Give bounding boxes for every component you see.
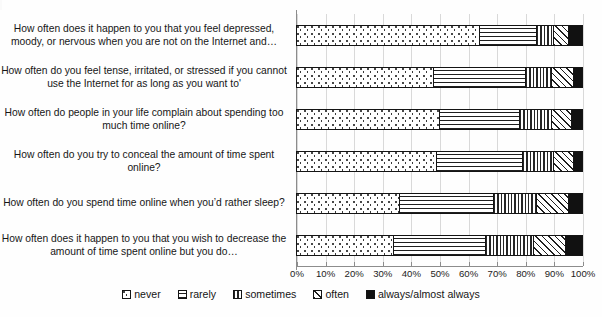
category-label: How often do you spend time online when … (0, 182, 292, 224)
category-axis-labels: How often does it happen to you that you… (0, 14, 292, 266)
category-label-text: How often does it happen to you that you… (0, 232, 288, 258)
bar-segment-never (296, 109, 440, 130)
tick-label: 20% (345, 268, 364, 279)
bar-row (297, 151, 583, 172)
bar-row (297, 109, 583, 130)
bar-segment-often (533, 235, 565, 256)
stacked-bar-chart: How often does it happen to you that you… (0, 0, 602, 317)
gridline (383, 14, 384, 266)
bar-segment-never (296, 67, 434, 88)
bar-segment-often (553, 25, 568, 46)
legend-item-rarely[interactable]: rarely (178, 288, 217, 300)
legend-item-always-almost-always[interactable]: always/almost always (366, 288, 480, 300)
bar-segment-rarely (393, 235, 486, 256)
tick-mark (469, 262, 470, 266)
bar-segment-rarely (399, 193, 494, 214)
tick-mark (383, 262, 384, 266)
bar-segment-sometimes (536, 25, 554, 46)
category-label-text: How often do you try to conceal the amou… (0, 148, 288, 174)
legend-swatch-icon (313, 290, 322, 299)
bar-segment-rarely (433, 67, 526, 88)
legend-item-sometimes[interactable]: sometimes (233, 288, 296, 300)
category-label-text: How often does it happen to you that you… (0, 22, 288, 48)
bar-segment-rarely (479, 25, 537, 46)
bar-segment-sometimes (525, 67, 552, 88)
bar-segment-rarely (439, 109, 520, 130)
bar-segment-often (551, 109, 572, 130)
tick-label: 60% (459, 268, 478, 279)
tick-mark (583, 262, 584, 266)
legend-label: never (134, 288, 161, 300)
category-label-text: How often do you feel tense, irritated, … (0, 64, 288, 90)
gridline (297, 14, 298, 266)
bar-row (297, 25, 583, 46)
tick-mark (297, 262, 298, 266)
bar-segment-sometimes (493, 193, 537, 214)
bar-segment-rarely (436, 151, 523, 172)
bar-segment-never (296, 151, 437, 172)
bar-segment-always-almost-always (568, 193, 583, 214)
legend-label: always/almost always (378, 288, 480, 300)
tick-mark (497, 262, 498, 266)
tick-label: 90% (545, 268, 564, 279)
tick-mark (526, 262, 527, 266)
category-label: How often do people in your life complai… (0, 98, 292, 140)
category-label: How often does it happen to you that you… (0, 14, 292, 56)
tick-mark (326, 262, 327, 266)
category-label-text: How often do people in your life complai… (0, 106, 288, 132)
tick-mark (354, 262, 355, 266)
gridline (440, 14, 441, 266)
gridline (411, 14, 412, 266)
gridline (354, 14, 355, 266)
category-label: How often do you try to conceal the amou… (0, 140, 292, 182)
bar-row (297, 193, 583, 214)
chart-legend: neverrarelysometimesoftenalways/almost a… (0, 288, 602, 300)
tick-label: 10% (316, 268, 335, 279)
legend-swatch-icon (178, 290, 187, 299)
bar-segment-always-almost-always (573, 151, 583, 172)
bar-row (297, 67, 583, 88)
gridline (497, 14, 498, 266)
tick-label: 0% (290, 268, 304, 279)
bar-segment-always-almost-always (571, 109, 583, 130)
bar-segment-never (296, 193, 400, 214)
tick-label: 40% (402, 268, 421, 279)
gridline (583, 14, 584, 266)
bar-segment-always-almost-always (573, 67, 583, 88)
category-label: How often do you feel tense, irritated, … (0, 56, 292, 98)
plot-area (297, 14, 583, 266)
bar-segment-sometimes (485, 235, 535, 256)
gridline (469, 14, 470, 266)
legend-label: often (325, 288, 349, 300)
tick-label: 30% (373, 268, 392, 279)
bar-segment-always-almost-always (565, 235, 583, 256)
tick-label: 80% (516, 268, 535, 279)
legend-swatch-icon (233, 290, 242, 299)
bar-segment-often (536, 193, 568, 214)
tick-label: 70% (488, 268, 507, 279)
bar-segment-sometimes (522, 151, 554, 172)
gridline (326, 14, 327, 266)
legend-label: sometimes (245, 288, 296, 300)
legend-swatch-icon (122, 290, 131, 299)
bar-segment-often (553, 151, 574, 172)
tick-mark (411, 262, 412, 266)
gridline (526, 14, 527, 266)
bar-segment-often (551, 67, 575, 88)
bar-row (297, 235, 583, 256)
tick-mark (554, 262, 555, 266)
tick-label: 100% (571, 268, 596, 279)
legend-item-never[interactable]: never (122, 288, 161, 300)
category-label: How often does it happen to you that you… (0, 224, 292, 266)
bar-segment-never (296, 25, 480, 46)
bar-segment-sometimes (519, 109, 551, 130)
tick-mark (440, 262, 441, 266)
value-axis-ticks: 0%10%20%30%40%50%60%70%80%90%100% (297, 266, 583, 282)
category-label-text: How often do you spend time online when … (3, 196, 285, 209)
tick-label: 50% (430, 268, 449, 279)
bar-segment-never (296, 235, 394, 256)
legend-label: rarely (190, 288, 217, 300)
legend-swatch-icon (366, 290, 375, 299)
bar-segment-always-almost-always (568, 25, 583, 46)
legend-item-often[interactable]: often (313, 288, 349, 300)
